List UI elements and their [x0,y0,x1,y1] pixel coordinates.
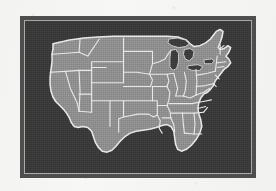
us-landmass-outline [50,30,231,153]
border-nc-sc [198,107,206,109]
screenshot-root [0,0,276,191]
border-sc-ga [204,107,208,112]
lake-erie [187,65,202,71]
us-landmass-group [50,30,231,153]
lake-michigan [170,49,179,70]
us-map-graphic [24,20,252,174]
framed-map-plate [20,16,256,178]
lake-ontario [204,59,215,64]
